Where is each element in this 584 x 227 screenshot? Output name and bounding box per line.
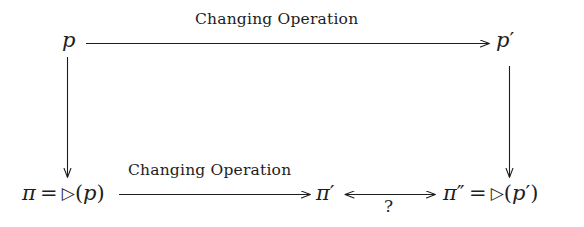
node-p-prime: p′ [496, 30, 514, 51]
commutative-diagram: p p′ π = ▷(p) π′ π″ = ▷(p′) Changing Ope… [0, 0, 584, 227]
edge-label-top: Changing Operation [195, 12, 358, 28]
node-p: p [62, 30, 75, 51]
node-p-prime-base: p [496, 28, 509, 52]
node-pi-definition: π = ▷(p) [22, 183, 105, 204]
edge-label-question: ? [384, 198, 393, 215]
node-p-label: p [62, 28, 75, 52]
triangle-operator-icon: ▷ [491, 183, 504, 203]
open-paren: ( [75, 181, 83, 205]
pi-symbol: π [22, 181, 36, 205]
argument-p-prime: p [512, 181, 525, 205]
close-paren: ) [97, 181, 105, 205]
close-paren: ) [530, 181, 538, 205]
pi-symbol: π [443, 181, 457, 205]
prime-mark-icon: ′ [509, 28, 514, 52]
prime-mark-icon: ′ [330, 181, 335, 205]
node-pi-prime: π′ [316, 183, 335, 204]
pi-symbol: π [316, 181, 330, 205]
argument-p: p [83, 181, 96, 205]
equals-sign: = [469, 181, 487, 205]
edge-label-bottom: Changing Operation [128, 163, 291, 179]
double-prime-mark-icon: ″ [457, 181, 465, 205]
open-paren: ( [504, 181, 512, 205]
triangle-operator-icon: ▷ [62, 183, 75, 203]
equals-sign: = [40, 181, 58, 205]
node-pi-double-prime-definition: π″ = ▷(p′) [443, 183, 538, 204]
